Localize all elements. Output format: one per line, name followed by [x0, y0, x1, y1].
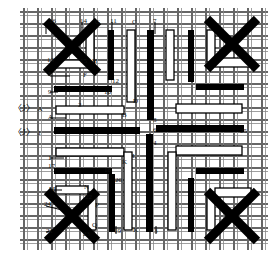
- marker-j-a: 〈J〉A: [13, 104, 43, 113]
- marker-j-1: 〈J〉1: [13, 128, 41, 137]
- marker-j-1-suffix: 1: [38, 129, 42, 137]
- section-markers: 〈J〉A〈J〉1: [0, 0, 278, 257]
- marker-j-1-bracket: 〈J〉: [13, 127, 35, 137]
- marker-j-a-suffix: A: [38, 105, 43, 113]
- marker-j-a-bracket: 〈J〉: [13, 103, 35, 113]
- patent-figure: 1614G11C71315HEF12910D2BA86254LK1171820M…: [0, 0, 278, 257]
